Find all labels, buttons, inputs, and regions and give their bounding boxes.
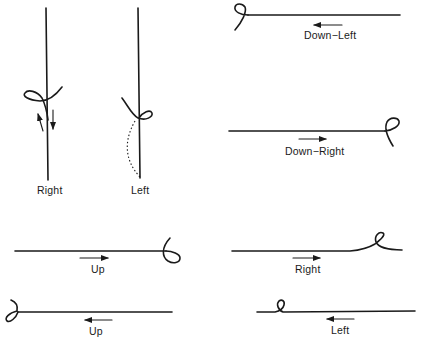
panel-vertical-right	[24, 8, 62, 180]
label-down-left: Down−Left	[304, 29, 356, 41]
panel-left	[257, 300, 415, 319]
label-down-right: Down−Right	[285, 145, 345, 157]
panel-down-right	[229, 118, 399, 146]
panel-vertical-left	[122, 8, 152, 178]
panel-down-left	[235, 4, 400, 30]
label-left-horizontal: Left	[331, 324, 349, 336]
panel-up-left	[6, 300, 172, 321]
label-up-right: Up	[91, 263, 105, 275]
label-right-horizontal: Right	[295, 263, 321, 275]
label-up-left: Up	[89, 325, 103, 337]
diagram-canvas	[0, 0, 426, 346]
panel-right	[232, 233, 402, 258]
panel-up-right	[15, 238, 180, 263]
label-left-vertical: Left	[131, 184, 149, 196]
label-right-vertical: Right	[37, 184, 63, 196]
